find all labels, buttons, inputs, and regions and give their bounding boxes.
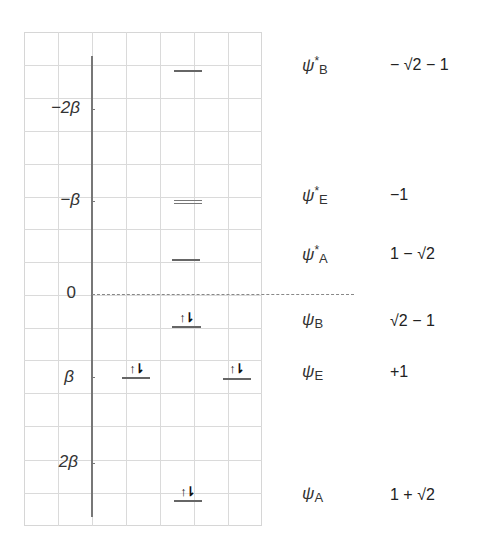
grid-line [24,426,262,427]
energy-psi-A: 1 + √2 [390,486,435,504]
level-psi-star-A [172,259,200,261]
energy-psi-E: +1 [390,363,408,381]
orbital-label-psi-star-E: ψ*E [302,184,328,207]
orbital-label-psi-star-B: ψ*B [302,54,328,77]
energy-psi-star-E: −1 [390,186,408,204]
electron-pair-icon: ↑⇂ [122,362,150,375]
grid-line [24,131,262,132]
grid-line [24,493,262,494]
level-psi-B [172,326,201,328]
grid-line [24,229,262,230]
orbital-label-psi-A: ψA [302,484,323,505]
electron-pair-icon: ↑⇂ [172,311,200,324]
axis-label-beta: β [4,367,74,387]
grid-line [228,32,229,526]
grid-line [194,32,195,526]
level-psi-star-E-degenerate [174,200,202,204]
grid-line [24,262,262,263]
level-psi-E-2 [223,378,251,380]
level-psi-E-1 [122,377,150,379]
grid-line [24,360,262,361]
axis-tick [92,377,95,378]
axis-label-2beta: 2β [8,452,78,472]
axis-tick [92,109,95,110]
axis-label-zero: 0 [6,283,76,303]
grid-line [24,65,262,66]
orbital-label-psi-E: ψE [302,362,323,383]
grid-line [24,328,262,329]
axis-label-minus-beta: −β [10,190,80,210]
axis-label-minus-2beta: −2β [10,98,80,118]
electron-pair-icon: ↑⇂ [173,485,201,498]
axis-tick [92,463,95,464]
zero-energy-dashed-line [92,294,354,295]
level-psi-star-B [174,70,202,72]
electron-pair-icon: ↑⇂ [222,362,250,375]
level-psi-A [174,500,202,502]
energy-psi-star-A: 1 − √2 [390,245,435,263]
energy-axis [91,56,93,517]
grid-line [24,164,262,165]
grid-line [160,32,161,526]
energy-psi-star-B: − √2 − 1 [390,56,449,74]
mo-energy-diagram: −2β −β 0 β 2β ↑⇂ ↑⇂ ↑⇂ ↑⇂ ψ*B ψ*E ψ*A ψB… [0,0,481,540]
energy-psi-B: √2 − 1 [390,312,435,330]
orbital-label-psi-star-A: ψ*A [302,243,328,266]
grid-line [24,393,262,394]
grid-line [126,32,127,526]
orbital-label-psi-B: ψB [302,310,323,331]
axis-tick [92,201,95,202]
